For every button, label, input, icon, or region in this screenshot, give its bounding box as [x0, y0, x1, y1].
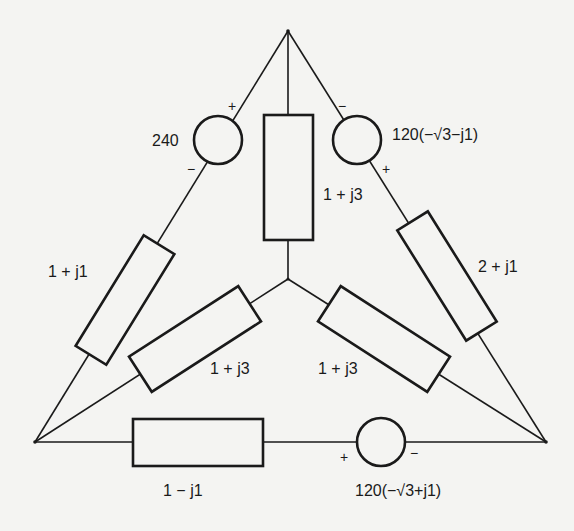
source-bottom: + − 120(−√3+j1) — [340, 418, 441, 499]
source-top-left-label: 240 — [152, 132, 179, 149]
impedance-wye-left: 1 + j3 — [129, 286, 261, 392]
source-top-left-plus: + — [228, 98, 236, 114]
impedance-bottom-line-label: 1 − j1 — [163, 482, 203, 499]
source-bottom-minus: − — [410, 445, 418, 461]
source-top-right-label: 120(−√3−j1) — [392, 126, 478, 143]
impedance-right-line-label: 2 + j1 — [478, 258, 518, 275]
source-top-left-minus: − — [187, 161, 195, 177]
node-top — [286, 29, 290, 33]
circuit-diagram: + − 240 − + 120(−√3−j1) + − 120(−√3+j1) … — [0, 0, 574, 531]
source-top-left: + − 240 — [152, 98, 242, 177]
source-top-right: − + 120(−√3−j1) — [333, 98, 478, 177]
node-bottom-right — [544, 440, 548, 444]
impedance-bottom-line: 1 − j1 — [133, 419, 263, 499]
source-bottom-label: 120(−√3+j1) — [355, 482, 441, 499]
impedance-wye-top-label: 1 + j3 — [323, 186, 363, 203]
impedance-wye-left-label: 1 + j3 — [210, 360, 250, 377]
node-bottom-left — [33, 440, 37, 444]
source-top-right-minus: − — [338, 98, 346, 114]
source-top-right-plus: + — [382, 161, 390, 177]
source-bottom-plus: + — [340, 449, 348, 465]
impedance-wye-right-label: 1 + j3 — [318, 360, 358, 377]
impedance-wye-right: 1 + j3 — [318, 286, 450, 392]
impedance-right-line: 2 + j1 — [397, 211, 517, 340]
impedance-left-line-label: 1 + j1 — [48, 263, 88, 280]
node-center — [287, 278, 290, 281]
